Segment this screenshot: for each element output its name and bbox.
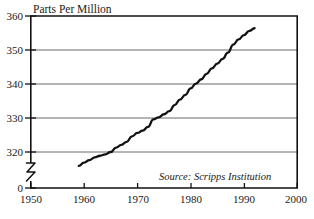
ytick-label-330: 330 bbox=[7, 112, 24, 124]
co2-chart-figure: 360 350 340 330 320 0 1950 1960 1970 198… bbox=[0, 0, 314, 219]
xtick-label-1980: 1980 bbox=[180, 193, 203, 205]
plot-frame bbox=[30, 16, 298, 188]
ytick-label-360: 360 bbox=[7, 10, 24, 22]
xtick-label-1960: 1960 bbox=[73, 193, 96, 205]
gridlines bbox=[30, 50, 298, 152]
xtick-label-1990: 1990 bbox=[233, 193, 256, 205]
ytick-label-350: 350 bbox=[7, 44, 24, 56]
ytick-label-340: 340 bbox=[7, 78, 24, 90]
source-annotation: Source: Scripps Institution bbox=[159, 171, 271, 182]
ytick-label-320: 320 bbox=[7, 146, 24, 158]
x-tick-labels: 1950 1960 1970 1980 1990 2000 bbox=[20, 193, 308, 205]
xtick-label-2000: 2000 bbox=[285, 193, 308, 205]
y-axis-break-icon bbox=[27, 163, 36, 181]
y-tick-labels: 360 350 340 330 320 0 bbox=[7, 10, 24, 194]
xtick-label-1970: 1970 bbox=[127, 193, 150, 205]
xtick-label-1950: 1950 bbox=[20, 193, 43, 205]
chart-title: Parts Per Million bbox=[33, 3, 112, 15]
data-series-line bbox=[79, 28, 255, 166]
chart-canvas: 360 350 340 330 320 0 1950 1960 1970 198… bbox=[0, 0, 314, 219]
